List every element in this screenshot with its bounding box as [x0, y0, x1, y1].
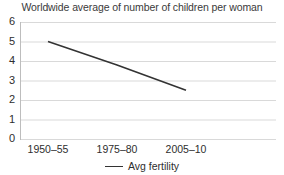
legend-entry-label: Avg fertility	[128, 161, 179, 172]
y-tick-label: 4	[1, 55, 15, 66]
chart-legend: Avg fertility	[0, 161, 284, 172]
y-tick-label: 0	[1, 133, 15, 144]
x-tick-label: 2005–10	[166, 144, 207, 155]
y-tick-label: 1	[1, 114, 15, 125]
x-tick-label: 1950–55	[28, 144, 69, 155]
y-tick-label: 3	[1, 75, 15, 86]
y-tick-label: 2	[1, 94, 15, 105]
chart-container: Worldwide average of number of children …	[0, 0, 284, 175]
line-swatch-icon	[105, 166, 123, 167]
x-tick-label: 1975–80	[97, 144, 138, 155]
series-lines-group	[48, 42, 186, 91]
y-tick-label: 5	[1, 36, 15, 47]
y-tick-label: 6	[1, 16, 15, 27]
series-line-0	[48, 42, 186, 91]
gridlines-group	[20, 23, 276, 140]
